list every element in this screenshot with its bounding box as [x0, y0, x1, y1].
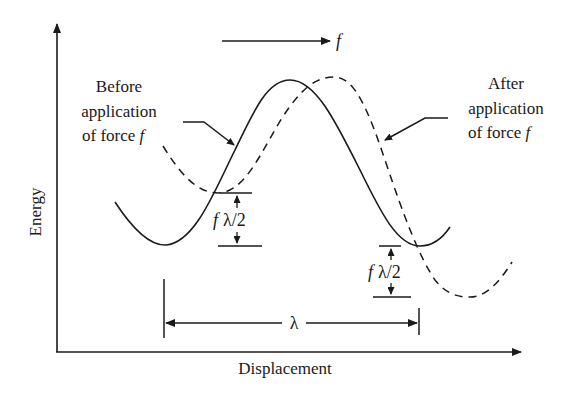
after-label-line3: of force f: [468, 123, 533, 142]
before-label-line3: of force f: [82, 126, 147, 145]
force-label: f: [336, 31, 344, 51]
after-label: After application of force f: [468, 74, 544, 142]
before-label-line2: application: [81, 102, 157, 121]
before-label: Before application of force f: [81, 77, 157, 145]
curve-before-force: [115, 80, 450, 246]
before-leader-arrow: [183, 122, 234, 145]
after-label-line1: After: [488, 74, 524, 93]
left-drop-label: fλ/2: [213, 210, 246, 230]
after-leader-arrow: [385, 118, 448, 140]
curve-after-force: [163, 77, 512, 297]
before-label-line1: Before: [96, 77, 142, 96]
energy-diagram: Energy Displacement f Before application…: [0, 0, 582, 401]
right-drop-label: fλ/2: [368, 262, 401, 282]
after-label-line2: application: [468, 99, 544, 118]
x-axis-label: Displacement: [238, 359, 332, 378]
period-label: λ: [290, 313, 299, 333]
y-axis-label: Energy: [26, 187, 45, 236]
